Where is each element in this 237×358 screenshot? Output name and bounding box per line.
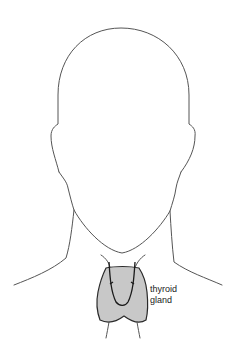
neck-left-outline — [14, 210, 74, 285]
larynx-outline-right — [135, 255, 145, 268]
lower-neck-right — [137, 322, 140, 338]
neck-right-outline — [170, 211, 222, 285]
head-neck-diagram — [0, 0, 237, 358]
head-outline — [51, 28, 195, 172]
thyroid-gland-label: thyroid gland — [150, 284, 177, 306]
label-line-1: thyroid — [150, 284, 177, 295]
thyroid-gland — [97, 267, 148, 323]
jaw-outline — [59, 172, 181, 253]
label-line-2: gland — [150, 295, 177, 306]
lower-neck-left — [106, 322, 109, 338]
